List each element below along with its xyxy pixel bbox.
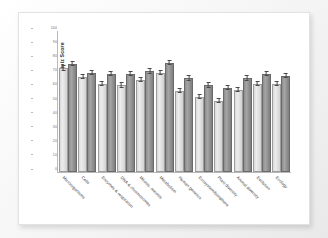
- bar: [126, 74, 135, 172]
- x-tick-label: Ecology: [275, 175, 289, 189]
- error-bar: [140, 77, 141, 82]
- bar-chart: Average Quiz Score 010203040506070809010…: [19, 13, 309, 224]
- error-bar: [247, 75, 248, 80]
- y-tick-mark: [31, 84, 34, 85]
- bar: [156, 73, 165, 172]
- error-bar: [91, 70, 92, 75]
- y-tick-mark: [31, 112, 34, 113]
- bar-group: [136, 31, 155, 172]
- error-bar: [218, 98, 219, 103]
- error-bar: [238, 87, 239, 92]
- error-bar: [160, 70, 161, 75]
- x-tick-label: Evolution: [255, 175, 271, 191]
- x-tick-label: Cells: [81, 175, 91, 185]
- y-tick-label: 70: [33, 66, 57, 74]
- bar-group: [194, 31, 213, 172]
- error-bar: [111, 71, 112, 76]
- y-tick-label: 40: [33, 109, 57, 117]
- y-tick-mark: [31, 169, 34, 170]
- bar: [165, 63, 174, 172]
- y-tick-mark: [31, 126, 34, 127]
- bar-group: [175, 31, 194, 172]
- error-bar: [266, 71, 267, 76]
- error-bar: [82, 74, 83, 79]
- bar: [145, 71, 154, 172]
- error-bar: [276, 81, 277, 86]
- bar: [117, 85, 126, 172]
- error-bar: [130, 71, 131, 76]
- error-bar: [169, 60, 170, 65]
- y-tick-mark: [31, 42, 34, 43]
- y-tick-label: 60: [33, 80, 57, 88]
- y-tick-mark: [31, 154, 34, 155]
- bar: [136, 80, 145, 172]
- bar-groups: [58, 31, 291, 172]
- error-bar: [257, 81, 258, 86]
- bar-group: [213, 31, 232, 172]
- y-tick-label: 0: [33, 165, 57, 173]
- y-tick-label: 10: [33, 151, 57, 159]
- y-tick-mark: [31, 98, 34, 99]
- bar: [175, 91, 184, 172]
- screenshot-root: Average Quiz Score 010203040506070809010…: [0, 0, 328, 238]
- error-bar: [227, 85, 228, 90]
- error-bar: [179, 88, 180, 93]
- y-tick-label: 80: [33, 52, 57, 60]
- error-bar: [121, 82, 122, 87]
- y-tick-label: 100: [33, 24, 57, 32]
- y-tick-mark: [31, 70, 34, 71]
- bar: [87, 73, 96, 172]
- error-bar: [63, 65, 64, 70]
- y-tick-label: 30: [33, 123, 57, 131]
- error-bar: [149, 68, 150, 73]
- bar: [253, 84, 262, 172]
- bar-group: [97, 31, 116, 172]
- y-tick-label: 20: [33, 137, 57, 145]
- x-axis-ticks: MicroorganismsCellsEnzymes & respiration…: [58, 175, 291, 223]
- x-tick-label: Metabolism: [158, 175, 177, 194]
- y-tick-mark: [31, 28, 34, 29]
- error-bar: [72, 61, 73, 66]
- error-bar: [102, 81, 103, 86]
- bar: [107, 74, 116, 172]
- plot-area: 0102030405060708090100: [57, 31, 291, 173]
- bar: [195, 97, 204, 172]
- y-tick-mark: [31, 56, 34, 57]
- bar-group: [116, 31, 135, 172]
- bar: [78, 77, 87, 172]
- y-tick-label: 90: [33, 38, 57, 46]
- bar: [204, 85, 213, 172]
- bar-group: [272, 31, 291, 172]
- bar-group: [252, 31, 271, 172]
- bar: [281, 76, 290, 172]
- error-bar: [199, 94, 200, 99]
- bar: [98, 84, 107, 172]
- bar: [214, 101, 223, 172]
- bar: [59, 68, 68, 172]
- bar-group: [77, 31, 96, 172]
- bar: [234, 90, 243, 172]
- bar-group: [58, 31, 77, 172]
- error-bar: [285, 73, 286, 78]
- chart-card: Average Quiz Score 010203040506070809010…: [18, 12, 310, 225]
- bar: [272, 84, 281, 172]
- error-bar: [188, 75, 189, 80]
- error-bar: [208, 82, 209, 87]
- bar-group: [155, 31, 174, 172]
- bar: [243, 78, 252, 172]
- bar: [68, 64, 77, 172]
- bar: [223, 88, 232, 172]
- bar: [262, 74, 271, 172]
- bar-group: [233, 31, 252, 172]
- y-tick-label: 50: [33, 95, 57, 103]
- bar: [184, 78, 193, 172]
- y-tick-mark: [31, 140, 34, 141]
